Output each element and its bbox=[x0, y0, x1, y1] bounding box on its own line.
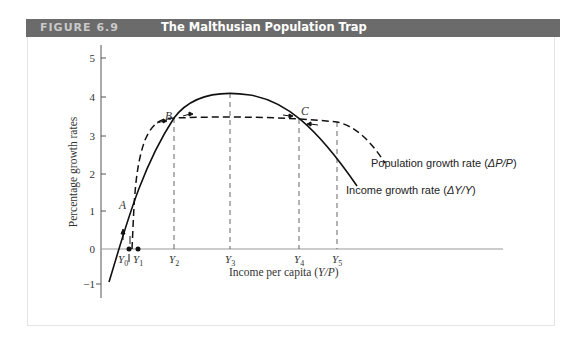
guide-lines bbox=[174, 93, 337, 249]
svg-text:5: 5 bbox=[90, 52, 96, 64]
income-series-label: Income growth rate (ΔY/Y) bbox=[346, 184, 476, 196]
arrow-icons bbox=[121, 112, 318, 244]
svg-text:2: 2 bbox=[90, 168, 96, 180]
point-a-label: A bbox=[118, 199, 127, 211]
svg-text:0: 0 bbox=[90, 243, 96, 255]
svg-text:4: 4 bbox=[90, 91, 96, 103]
svg-text:−1: −1 bbox=[83, 278, 95, 290]
population-series-label: Population growth rate (ΔP/P) bbox=[371, 157, 517, 169]
svg-text:3: 3 bbox=[90, 130, 96, 142]
y-axis-title: Percentage growth rates bbox=[67, 116, 80, 227]
svg-text:Y0: Y0 bbox=[118, 253, 128, 268]
svg-text:Y1: Y1 bbox=[133, 253, 143, 268]
chart: 5 4 3 2 1 0 −1 Percentage growth rates A… bbox=[0, 0, 584, 347]
svg-text:Y2: Y2 bbox=[169, 253, 179, 268]
income-growth-curve bbox=[109, 93, 357, 282]
point-b-label: B bbox=[165, 110, 172, 122]
y0-dot bbox=[127, 247, 132, 252]
y1-dot bbox=[136, 247, 141, 252]
x-axis-title: Income per capita (Y/P) bbox=[229, 266, 339, 279]
point-c-label: C bbox=[301, 105, 309, 117]
svg-text:1: 1 bbox=[90, 205, 96, 217]
y-tick-labels: 5 4 3 2 1 0 −1 bbox=[83, 52, 95, 290]
